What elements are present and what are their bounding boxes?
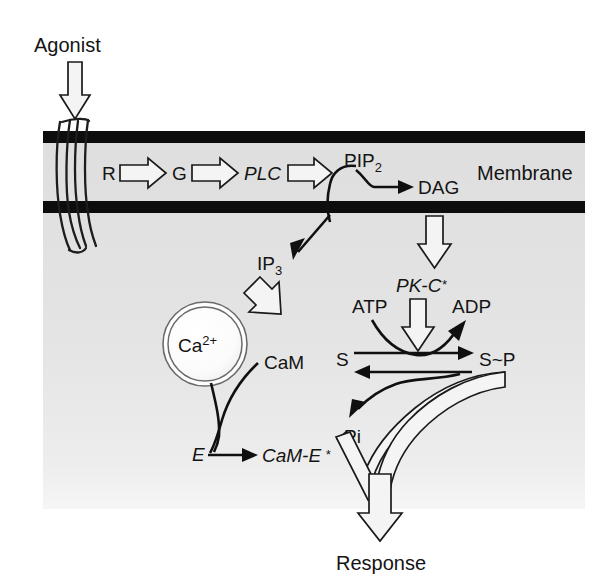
plc-label: PLC [244, 163, 281, 184]
adp-label: ADP [452, 296, 491, 317]
membrane-label: Membrane [477, 162, 573, 184]
pkc-label: PK-C* [396, 275, 447, 296]
atp-label: ATP [352, 296, 388, 317]
agonist-label: Agonist [34, 34, 101, 56]
enzyme-label: E [192, 444, 205, 465]
pathway-diagram: Agonist R G PLC PIP2 DAG [0, 0, 608, 587]
pathway-figure: Agonist R G PLC PIP2 DAG [0, 0, 608, 587]
came-complex-label: CaM-E* [262, 445, 331, 466]
membrane-outer-leaflet [43, 131, 585, 143]
response-label: Response [336, 552, 426, 574]
receptor-label: R [102, 163, 116, 184]
substrate-label: S [336, 349, 349, 370]
cam-label: CaM [264, 352, 304, 373]
membrane-inner-leaflet [43, 201, 585, 213]
g-protein-label: G [172, 163, 187, 184]
substrate-phosphate-label: S~P [479, 349, 515, 370]
agonist-arrow-icon [60, 62, 90, 119]
dag-label: DAG [418, 177, 459, 198]
